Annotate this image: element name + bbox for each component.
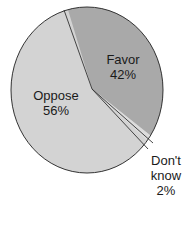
- oppose-label: Oppose 56%: [33, 88, 79, 118]
- dont-know-label: Don't know 2%: [148, 153, 184, 198]
- dont-know-line1: Don't: [148, 153, 184, 168]
- oppose-name: Oppose: [33, 88, 79, 103]
- dont-know-pct: 2%: [148, 183, 184, 198]
- dont-know-line2: know: [148, 168, 184, 183]
- oppose-pct: 56%: [33, 103, 79, 118]
- favor-name: Favor: [103, 52, 143, 67]
- favor-label: Favor 42%: [103, 52, 143, 82]
- favor-pct: 42%: [103, 67, 143, 82]
